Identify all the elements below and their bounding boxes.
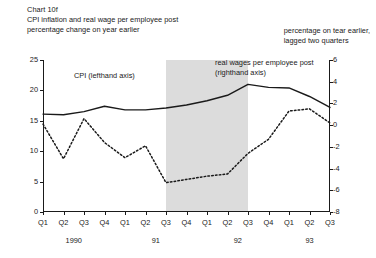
- x-axis-tick: [64, 212, 65, 215]
- left-axis-tick-label: 25: [16, 55, 38, 64]
- x-axis-year-label: 1990: [54, 236, 94, 245]
- x-axis-tick: [166, 212, 167, 215]
- x-axis-year-label: 93: [290, 236, 330, 245]
- x-axis-tick: [43, 212, 44, 215]
- right-axis-tick-label: 2: [333, 98, 357, 107]
- left-axis-tick-label: 0: [16, 207, 38, 216]
- right-axis-note: percentage on tear earlier, lagged two q…: [284, 27, 370, 45]
- right-axis-tick-label: 6: [333, 55, 357, 64]
- right-axis-tick-label: -8: [333, 207, 357, 216]
- x-axis-tick: [310, 212, 311, 215]
- series-layer: [43, 60, 330, 212]
- annotation-cpi: CPI (lefthand axis): [74, 72, 135, 80]
- series-line-cpi: [43, 84, 330, 114]
- left-axis-tick: [40, 151, 43, 152]
- right-axis-note-line-2: lagged two quarters: [284, 37, 370, 45]
- x-axis-tick: [228, 212, 229, 215]
- x-axis-year-label: 91: [136, 236, 176, 245]
- annotation-real-wages-line-1: real wages per employee post: [215, 59, 314, 67]
- x-axis-tick: [187, 212, 188, 215]
- page-title: CPI inflation and real wage per employee…: [27, 16, 178, 24]
- right-axis-tick-label: -2: [333, 142, 357, 151]
- chart-title-block: Chart 10f CPI inflation and real wage pe…: [27, 6, 178, 34]
- x-axis-tick-label: Q3: [317, 218, 343, 227]
- x-axis-year-label: 92: [218, 236, 258, 245]
- x-axis-tick: [289, 212, 290, 215]
- x-axis-tick: [248, 212, 249, 215]
- x-axis-tick: [269, 212, 270, 215]
- left-axis-tick-label: 15: [16, 116, 38, 125]
- right-axis-note-line-1: percentage on tear earlier,: [284, 27, 370, 35]
- left-axis-tick-label: 5: [16, 177, 38, 186]
- right-axis-tick-label: 4: [333, 77, 357, 86]
- left-axis-tick-label: 10: [16, 146, 38, 155]
- x-axis-tick: [146, 212, 147, 215]
- x-axis-tick: [207, 212, 208, 215]
- left-axis-tick: [40, 182, 43, 183]
- x-axis-tick: [330, 212, 331, 215]
- right-axis-tick-label: 0: [333, 120, 357, 129]
- left-axis-tick: [40, 90, 43, 91]
- x-axis-tick: [125, 212, 126, 215]
- right-axis-tick-label: -6: [333, 185, 357, 194]
- plot-area: 0510152025-8-6-4-20246Q1Q2Q3Q4Q1Q2Q3Q4Q1…: [43, 60, 330, 212]
- series-line-real-wages: [43, 109, 330, 183]
- x-axis-tick: [105, 212, 106, 215]
- right-axis-tick-label: -4: [333, 164, 357, 173]
- chart-number: Chart 10f: [27, 6, 178, 14]
- x-axis-tick: [84, 212, 85, 215]
- chart-container: Chart 10f CPI inflation and real wage pe…: [0, 0, 376, 258]
- annotation-real-wages-line-2: (righthand axis): [215, 69, 314, 77]
- annotation-real-wages: real wages per employee post (righthand …: [215, 59, 314, 77]
- left-axis-tick: [40, 121, 43, 122]
- left-axis-tick-label: 20: [16, 85, 38, 94]
- left-axis-tick: [40, 60, 43, 61]
- chart-subtitle: percentage change on year earlier: [27, 26, 178, 34]
